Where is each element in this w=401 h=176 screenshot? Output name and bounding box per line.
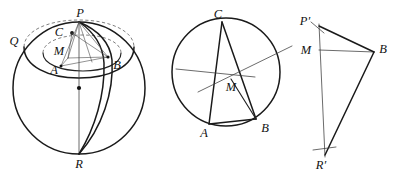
label-B: B: [113, 58, 121, 72]
label-Pprime: P′: [299, 14, 311, 28]
sphere-panel: P Q C M A B R: [9, 6, 145, 171]
vertical-line-PR: [319, 24, 325, 157]
sphere-center-dot: [77, 86, 81, 90]
geometry-figure: P Q C M A B R C M A B: [0, 0, 401, 176]
label-A: A: [199, 126, 208, 140]
label-B: B: [379, 42, 387, 56]
segment-M-C: [68, 33, 72, 58]
great-circle-arc-PR-inner: [79, 22, 104, 154]
label-P: P: [75, 6, 84, 20]
segment-B-Rprime: [325, 52, 374, 155]
point-dot-B: [106, 55, 109, 58]
label-Rprime: R′: [315, 158, 327, 172]
label-M: M: [300, 43, 312, 57]
figure-canvas: P Q C M A B R C M A B: [0, 0, 401, 176]
circle-panel: C M A B: [172, 7, 292, 140]
label-R: R: [74, 157, 83, 171]
triangle-panel: P′ M B R′: [299, 14, 387, 172]
chord-C-B: [222, 22, 256, 119]
label-C: C: [55, 25, 64, 39]
point-dot-A: [60, 65, 63, 68]
segment-Pprime-B: [319, 26, 374, 52]
label-C: C: [214, 7, 223, 21]
label-M: M: [225, 80, 237, 94]
label-M: M: [53, 44, 65, 58]
label-B: B: [261, 121, 269, 135]
segment-M-B: [319, 50, 374, 52]
label-A: A: [49, 63, 58, 77]
label-Q: Q: [9, 34, 18, 48]
segment-C-B: [72, 33, 108, 57]
chord-P-M: [68, 22, 79, 58]
